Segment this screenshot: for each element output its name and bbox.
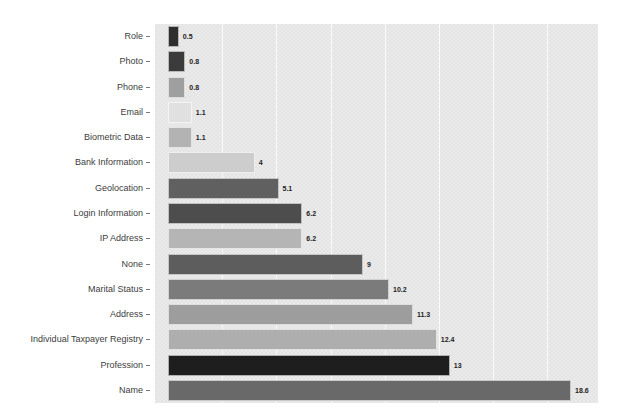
plot-area: 0.50.80.81.11.145.16.26.2910.211.312.413…	[155, 24, 598, 403]
bar	[168, 102, 192, 123]
axis-tick	[146, 365, 150, 366]
bar	[168, 254, 363, 275]
axis-tick	[146, 61, 150, 62]
axis-tick	[146, 289, 150, 290]
bar-row: 1.1	[155, 100, 598, 125]
label-row: Bank Information	[0, 150, 150, 175]
category-label: Name	[119, 386, 143, 395]
category-label: Photo	[119, 57, 143, 66]
category-label: Geolocation	[95, 184, 143, 193]
bar	[168, 355, 450, 376]
axis-tick	[146, 112, 150, 113]
bar-rows: 0.50.80.81.11.145.16.26.2910.211.312.413…	[155, 24, 598, 403]
bar-row: 6.2	[155, 201, 598, 226]
bar-row: 10.2	[155, 277, 598, 302]
axis-tick	[146, 137, 150, 138]
axis-tick	[146, 87, 150, 88]
label-row: Email	[0, 100, 150, 125]
label-row: Biometric Data	[0, 125, 150, 150]
bar	[168, 127, 192, 148]
value-label: 1.1	[196, 109, 206, 116]
category-label: Marital Status	[88, 285, 143, 294]
label-row: Phone	[0, 75, 150, 100]
bar-row: 11.3	[155, 302, 598, 327]
category-label: Individual Taxpayer Registry	[31, 335, 143, 344]
bar-row: 1.1	[155, 125, 598, 150]
bar-row: 0.8	[155, 75, 598, 100]
bar	[168, 329, 437, 350]
value-label: 1.1	[196, 134, 206, 141]
value-label: 12.4	[441, 336, 455, 343]
bar	[168, 228, 302, 249]
label-row: IP Address	[0, 226, 150, 251]
label-row: Address	[0, 302, 150, 327]
axis-tick	[146, 162, 150, 163]
bar-row: 9	[155, 251, 598, 276]
bar	[168, 380, 571, 401]
bar-row: 6.2	[155, 226, 598, 251]
value-label: 18.6	[575, 387, 589, 394]
axis-tick	[146, 264, 150, 265]
category-label: None	[121, 260, 143, 269]
axis-tick	[146, 339, 150, 340]
label-row: Login Information	[0, 201, 150, 226]
value-label: 9	[367, 261, 371, 268]
value-label: 6.2	[306, 235, 316, 242]
value-label: 11.3	[417, 311, 430, 318]
axis-tick	[146, 390, 150, 391]
axis-tick	[146, 213, 150, 214]
category-label: Bank Information	[75, 158, 143, 167]
bar	[168, 26, 179, 47]
bar-row: 5.1	[155, 176, 598, 201]
bar	[168, 304, 413, 325]
y-axis-labels: RolePhotoPhoneEmailBiometric DataBank In…	[0, 24, 150, 403]
bar-row: 0.8	[155, 49, 598, 74]
category-label: Address	[110, 310, 143, 319]
label-row: Individual Taxpayer Registry	[0, 327, 150, 352]
bar-row: 0.5	[155, 24, 598, 49]
value-label: 0.8	[189, 58, 199, 65]
axis-tick	[146, 36, 150, 37]
category-label: IP Address	[100, 234, 143, 243]
label-row: Profession	[0, 352, 150, 377]
category-label: Role	[124, 32, 143, 41]
value-label: 0.8	[189, 84, 199, 91]
label-row: Role	[0, 24, 150, 49]
category-label: Biometric Data	[84, 133, 143, 142]
bar	[168, 203, 302, 224]
axis-tick	[146, 188, 150, 189]
value-label: 0.5	[183, 33, 193, 40]
bar	[168, 178, 279, 199]
bar-row: 4	[155, 150, 598, 175]
value-label: 10.2	[393, 286, 407, 293]
bar	[168, 51, 185, 72]
value-label: 4	[259, 159, 263, 166]
bar-row: 12.4	[155, 327, 598, 352]
value-label: 5.1	[283, 185, 293, 192]
label-row: Geolocation	[0, 176, 150, 201]
axis-tick	[146, 238, 150, 239]
value-label: 13	[454, 362, 462, 369]
bar	[168, 77, 185, 98]
category-label: Phone	[117, 83, 143, 92]
label-row: None	[0, 251, 150, 276]
bar	[168, 279, 389, 300]
category-label: Email	[120, 108, 143, 117]
label-row: Photo	[0, 49, 150, 74]
axis-tick	[146, 314, 150, 315]
bar-row: 18.6	[155, 378, 598, 403]
label-row: Name	[0, 378, 150, 403]
label-row: Marital Status	[0, 277, 150, 302]
category-label: Profession	[100, 361, 143, 370]
bar-row: 13	[155, 352, 598, 377]
value-label: 6.2	[306, 210, 316, 217]
category-label: Login Information	[73, 209, 143, 218]
bar	[168, 152, 255, 173]
bar-chart-figure: RolePhotoPhoneEmailBiometric DataBank In…	[0, 0, 624, 416]
